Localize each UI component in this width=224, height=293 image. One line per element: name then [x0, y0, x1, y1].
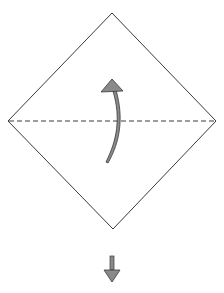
origami-diagram: [0, 0, 224, 293]
paper-square: [8, 13, 216, 229]
next-step-arrow-icon: [104, 256, 120, 282]
